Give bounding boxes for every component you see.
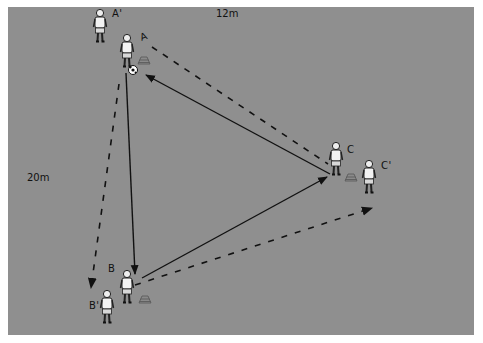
run-a-to-c	[152, 47, 328, 164]
player-c-icon	[330, 142, 343, 175]
run-b-to-c-prime	[135, 208, 372, 285]
pass-c-to-a	[146, 75, 330, 174]
player-label-a-prime: A'	[112, 8, 123, 19]
cone-icon	[138, 57, 150, 64]
cone-icon	[345, 174, 357, 181]
player-a-icon	[121, 34, 134, 67]
player-label-b-prime: B'	[89, 300, 100, 311]
player-c-prime-icon	[363, 160, 376, 193]
player-a-prime-icon	[94, 9, 107, 42]
pass-b-to-c	[142, 177, 327, 278]
player-b-prime-icon	[101, 290, 114, 323]
width-dimension-label: 12m	[216, 8, 238, 19]
drill-diagram	[0, 0, 483, 343]
player-b-icon	[121, 270, 134, 303]
pass-a-to-b	[126, 73, 135, 274]
height-dimension-label: 20m	[27, 172, 49, 183]
cone-icon	[139, 296, 151, 303]
player-label-c-prime: C'	[381, 160, 392, 171]
player-label-c: C	[347, 144, 354, 155]
run-a-to-b-prime	[91, 84, 119, 288]
player-label-b: B	[108, 263, 115, 274]
